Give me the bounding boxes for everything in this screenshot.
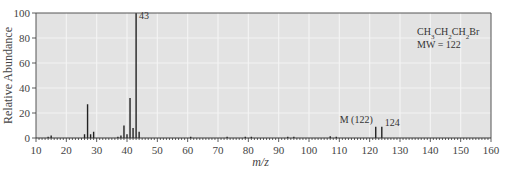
- x-tick-label: 40: [122, 144, 134, 156]
- y-tick-label: 100: [14, 7, 31, 19]
- molecular-weight-label: MW = 122: [417, 39, 461, 50]
- x-tick-label: 110: [331, 144, 348, 156]
- x-tick-label: 70: [213, 144, 225, 156]
- x-tick-label: 100: [301, 144, 318, 156]
- x-tick-label: 140: [422, 144, 439, 156]
- x-tick-label: 120: [361, 144, 378, 156]
- x-tick-label: 20: [61, 144, 73, 156]
- x-tick-label: 160: [483, 144, 500, 156]
- y-axis: 020406080100: [14, 7, 37, 144]
- y-tick-label: 20: [19, 107, 31, 119]
- y-tick-label: 60: [19, 57, 31, 69]
- x-tick-label: 60: [182, 144, 194, 156]
- x-tick-label: 130: [392, 144, 409, 156]
- x-tick-label: 90: [273, 144, 285, 156]
- peak-label: 43: [139, 10, 149, 21]
- x-tick-label: 150: [452, 144, 469, 156]
- peak-label: M (122): [340, 114, 373, 126]
- y-tick-label: 80: [19, 32, 31, 44]
- x-axis-label: m/z: [252, 155, 269, 169]
- peak-label: 124: [385, 117, 400, 128]
- x-tick-label: 50: [152, 144, 164, 156]
- y-tick-label: 0: [25, 132, 31, 144]
- y-tick-label: 40: [19, 82, 31, 94]
- mass-spectrum-chart: 102030405060708090100110120130140150160 …: [0, 0, 516, 173]
- x-axis: 102030405060708090100110120130140150160: [31, 138, 500, 156]
- x-tick-label: 10: [31, 144, 43, 156]
- y-axis-label: Relative Abundance: [1, 27, 15, 124]
- x-tick-label: 30: [91, 144, 103, 156]
